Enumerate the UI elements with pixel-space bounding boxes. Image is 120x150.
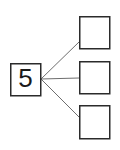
child-node-2[interactable] [80,62,110,94]
connector-line-top [41,42,79,79]
root-node[interactable]: 5 [11,63,41,95]
child-node-1[interactable] [80,17,110,49]
root-node-label: 5 [18,63,32,93]
child-node-box-1[interactable] [80,17,110,49]
connector-group [41,42,79,117]
number-bond-diagram: 5 [0,0,120,150]
connector-line-middle [41,78,79,79]
connector-line-bottom [41,79,79,117]
child-node-3[interactable] [80,106,110,139]
diagram-canvas: 5 [0,0,120,150]
child-node-box-2[interactable] [80,62,110,94]
child-node-box-3[interactable] [80,106,110,139]
